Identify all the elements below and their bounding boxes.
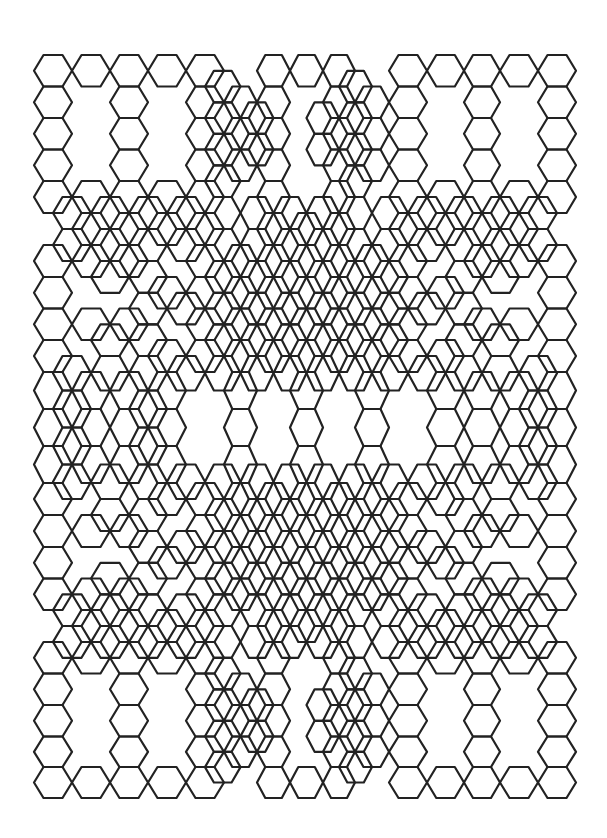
hexagon-icon bbox=[389, 674, 427, 706]
hexagon-icon bbox=[464, 87, 500, 119]
offset-hexagon-icon bbox=[482, 356, 519, 391]
hexagon-icon bbox=[464, 409, 500, 446]
hexagon-icon bbox=[110, 118, 148, 150]
hexagon-icon bbox=[500, 767, 538, 798]
hexagon-icon bbox=[110, 150, 148, 182]
hexagon-icon bbox=[34, 547, 72, 579]
offset-hexagon-icon bbox=[167, 356, 205, 391]
hexagon-icon bbox=[389, 55, 427, 87]
hexagon-icon bbox=[148, 55, 186, 87]
hexagon-icon bbox=[389, 705, 427, 737]
hexagon-icon bbox=[355, 409, 389, 446]
hexagon-icon bbox=[538, 150, 576, 182]
hexagon-icon bbox=[464, 705, 500, 737]
hexagon-icon bbox=[110, 55, 148, 87]
hexagon-icon bbox=[72, 55, 110, 87]
hexagon-icon bbox=[110, 705, 148, 737]
hexagon-icon bbox=[538, 277, 576, 309]
hexagon-icon bbox=[224, 409, 257, 446]
hexagon-icon bbox=[34, 150, 72, 182]
offset-hexagon-icon bbox=[339, 465, 372, 500]
offset-hexagon-icon bbox=[446, 356, 483, 391]
hexagon-icon bbox=[290, 55, 323, 87]
hexagon-icon bbox=[290, 409, 323, 446]
hexagon-pattern bbox=[0, 0, 607, 838]
hexagon-icon bbox=[427, 55, 464, 87]
offset-hexagon-icon bbox=[408, 465, 446, 500]
hexagon-icon bbox=[538, 737, 576, 768]
offset-hexagon-icon bbox=[274, 356, 307, 391]
hexagon-icon bbox=[389, 737, 427, 768]
offset-hexagon-icon bbox=[167, 465, 205, 500]
offset-hexagon-icon bbox=[91, 356, 129, 391]
hexagon-icon bbox=[538, 674, 576, 706]
hexagon-icon bbox=[34, 55, 72, 87]
offset-hexagon-icon bbox=[129, 465, 167, 500]
hexagon-icon bbox=[538, 705, 576, 737]
hexagon-icon bbox=[34, 515, 72, 547]
offset-hexagon-icon bbox=[53, 356, 91, 391]
hexagon-icon bbox=[464, 150, 500, 182]
hexagon-icon bbox=[34, 277, 72, 309]
offset-hexagon-icon bbox=[205, 356, 241, 391]
offset-hexagon-icon bbox=[53, 465, 91, 500]
hexagon-icon bbox=[389, 150, 427, 182]
hexagon-icon bbox=[538, 55, 576, 87]
hexagon-icon bbox=[110, 87, 148, 119]
hexagon-icon bbox=[389, 767, 427, 798]
hexagon-icon bbox=[464, 737, 500, 768]
hexagon-icon bbox=[464, 55, 500, 87]
hexagon-icon bbox=[34, 87, 72, 119]
hexagon-icon bbox=[34, 309, 72, 341]
hexagon-icon bbox=[148, 767, 186, 798]
hexagon-icon bbox=[34, 737, 72, 768]
hexagon-icon bbox=[538, 309, 576, 341]
offset-hexagon-icon bbox=[372, 465, 408, 500]
offset-hexagon-icon bbox=[241, 465, 274, 500]
hexagon-icon bbox=[538, 118, 576, 150]
hexagon-icon bbox=[500, 55, 538, 87]
hexagon-icon bbox=[72, 767, 110, 798]
offset-hexagon-icon bbox=[372, 356, 408, 391]
hexagon-icon bbox=[290, 767, 323, 798]
hexagon-icon bbox=[34, 674, 72, 706]
hexagon-icon bbox=[538, 547, 576, 579]
hexagon-icon bbox=[464, 767, 500, 798]
hexagon-icon bbox=[538, 767, 576, 798]
offset-hexagon-icon bbox=[519, 465, 557, 500]
hexagon-icon bbox=[110, 674, 148, 706]
hexagon-icon bbox=[389, 118, 427, 150]
hexagon-icon bbox=[110, 767, 148, 798]
hexagon-layer bbox=[34, 55, 576, 798]
offset-hexagon-icon bbox=[129, 356, 167, 391]
offset-hexagon-icon bbox=[241, 356, 274, 391]
offset-hexagon-icon bbox=[482, 465, 519, 500]
hexagon-icon bbox=[389, 87, 427, 119]
hexagon-icon bbox=[34, 705, 72, 737]
offset-hexagon-icon bbox=[446, 465, 483, 500]
hexagon-icon bbox=[427, 409, 464, 446]
hexagon-icon bbox=[427, 767, 464, 798]
offset-hexagon-icon bbox=[307, 356, 340, 391]
hexagon-icon bbox=[34, 767, 72, 798]
pattern-canvas: Hexagon tiling pattern bbox=[0, 0, 607, 838]
offset-hexagon-icon bbox=[519, 356, 557, 391]
offset-hexagon-icon bbox=[91, 465, 129, 500]
hexagon-icon bbox=[538, 515, 576, 547]
hexagon-icon bbox=[257, 767, 290, 798]
offset-hexagon-icon bbox=[339, 356, 372, 391]
hexagon-icon bbox=[538, 87, 576, 119]
offset-hexagon-icon bbox=[307, 465, 340, 500]
hexagon-icon bbox=[110, 737, 148, 768]
hexagon-icon bbox=[257, 55, 290, 87]
hexagon-icon bbox=[464, 674, 500, 706]
hexagon-icon bbox=[464, 118, 500, 150]
hexagon-icon bbox=[34, 118, 72, 150]
offset-hexagon-icon bbox=[205, 465, 241, 500]
offset-hexagon-icon bbox=[408, 356, 446, 391]
offset-hexagon-icon bbox=[274, 465, 307, 500]
